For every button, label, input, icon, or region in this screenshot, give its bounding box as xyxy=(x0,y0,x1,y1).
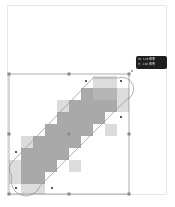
selected-shape[interactable] xyxy=(0,0,175,207)
dimension-tooltip: W: 116 像素 H: 116 像素 xyxy=(136,56,167,69)
cursor-icon xyxy=(131,70,133,72)
center-point xyxy=(68,133,71,136)
tooltip-height: H: 116 像素 xyxy=(138,62,165,67)
